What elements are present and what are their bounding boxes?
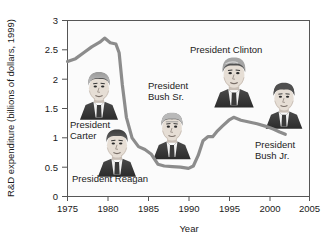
y-tick-label-2: 2	[53, 74, 58, 85]
label-president-bush-sr-line1: President	[148, 80, 188, 91]
x-tick-label-1985: 1985	[138, 203, 159, 214]
y-tick-label-0: 0	[53, 191, 58, 202]
x-tick-label-1995: 1995	[219, 203, 240, 214]
label-president-carter-line2: Carter	[70, 130, 96, 141]
x-axis-tick-labels: 1975 1980 1985 1990 1995 2000 2005	[57, 203, 320, 214]
label-president-carter-line1: President	[70, 119, 110, 130]
rd-expenditure-line-chart: 0 0.5 1 1.5 2 2.5 3 1975 1980 1985 1990 …	[0, 0, 332, 242]
chart-figure: 0 0.5 1 1.5 2 2.5 3 1975 1980 1985 1990 …	[0, 0, 332, 242]
y-tick-label-1_5: 1.5	[45, 103, 58, 114]
x-tick-label-1980: 1980	[97, 203, 118, 214]
y-axis-tick-labels: 0 0.5 1 1.5 2 2.5 3	[45, 15, 58, 202]
x-tick-label-1975: 1975	[57, 203, 78, 214]
y-axis-ticks	[62, 21, 67, 197]
y-tick-label-1: 1	[53, 132, 58, 143]
x-axis-title: Year	[179, 223, 198, 234]
x-tick-label-2000: 2000	[259, 203, 280, 214]
label-president-bush-jr-line2: Bush Jr.	[255, 150, 289, 161]
x-tick-label-2005: 2005	[299, 203, 320, 214]
label-president-bush-jr-line1: President	[255, 139, 295, 150]
x-tick-label-1990: 1990	[178, 203, 199, 214]
y-tick-label-0_5: 0.5	[45, 162, 58, 173]
label-president-reagan: President Reagan	[72, 173, 148, 184]
y-axis-title: R&D expenditure (billions of dollars, 19…	[5, 19, 16, 197]
label-president-bush-sr-line2: Bush Sr.	[148, 91, 184, 102]
y-tick-label-2_5: 2.5	[45, 44, 58, 55]
y-tick-label-3: 3	[53, 15, 58, 26]
label-president-clinton: President Clinton	[190, 44, 262, 55]
